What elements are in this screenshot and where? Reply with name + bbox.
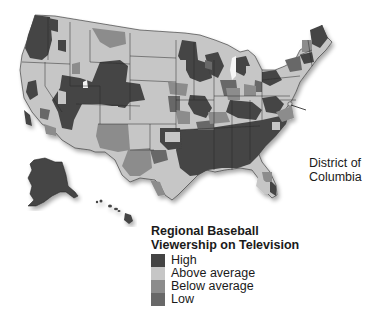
legend-swatch-below-average bbox=[151, 280, 165, 293]
dc-callout-label: District of Columbia bbox=[309, 156, 362, 184]
legend-items: High Above average Below average Low bbox=[151, 254, 299, 306]
legend-swatch-above-average bbox=[151, 267, 165, 280]
dc-callout-line2: Columbia bbox=[309, 170, 362, 184]
dc-callout-line bbox=[291, 105, 306, 110]
legend-title-line2: Viewership on Television bbox=[151, 238, 299, 252]
map-legend: Regional Baseball Viewership on Televisi… bbox=[151, 224, 299, 306]
hawaii bbox=[96, 200, 133, 225]
dc-callout-line1: District of bbox=[309, 156, 362, 170]
legend-swatch-high bbox=[151, 254, 165, 267]
legend-swatch-low bbox=[151, 293, 165, 306]
legend-title-line1: Regional Baseball bbox=[151, 224, 299, 238]
alaska bbox=[28, 158, 78, 206]
legend-label-low: Low bbox=[171, 293, 194, 306]
contiguous-us bbox=[20, 15, 332, 200]
legend-item-low: Low bbox=[151, 293, 299, 306]
